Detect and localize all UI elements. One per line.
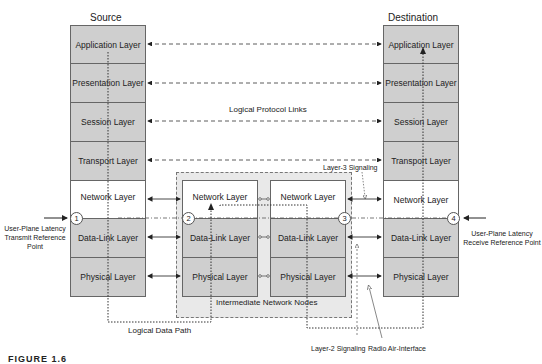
reference-point-3: 3 xyxy=(338,212,351,225)
reference-point-2: 2 xyxy=(182,212,195,225)
transmit-reference-point-label: User-Plane Latency Transmit Reference Po… xyxy=(2,224,68,251)
receive-reference-point-label: User-Plane Latency Receive Reference Poi… xyxy=(463,229,541,247)
layer2-signaling-label: Layer-2 Signaling xyxy=(311,345,365,352)
radio-air-interface-label: Radio Air-Interface xyxy=(368,345,426,352)
logical-data-path-label: Logical Data Path xyxy=(128,326,191,335)
reference-point-1: 1 xyxy=(70,212,83,225)
logical-protocol-links-label: Logical Protocol Links xyxy=(229,105,307,114)
layer3-signaling-label: Layer-3 Signaling xyxy=(323,164,377,171)
figure-caption: FIGURE 1.6 xyxy=(8,354,67,364)
reference-point-4: 4 xyxy=(447,212,460,225)
